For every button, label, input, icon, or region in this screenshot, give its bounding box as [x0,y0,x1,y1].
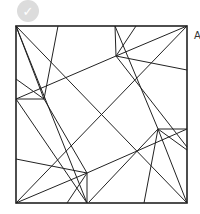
diagram-line [115,26,116,56]
diagram-line [116,56,187,70]
diagram-line [116,26,187,56]
geometric-diagram [0,0,200,214]
diagram-line [16,159,87,173]
diagram-line [44,26,58,99]
diagram-line [144,129,158,203]
diagram-line [89,129,158,202]
